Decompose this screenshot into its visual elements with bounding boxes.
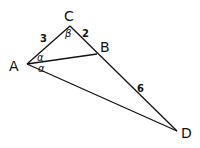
- side-label-bd: 6: [137, 83, 144, 94]
- point-label-c: C: [64, 8, 74, 24]
- angle-label-alpha-upper: α: [37, 52, 44, 63]
- triangle-diagram: C B A D 3 2 6 β α α: [0, 0, 200, 148]
- point-label-d: D: [181, 125, 192, 141]
- point-label-a: A: [9, 58, 19, 74]
- side-label-cb: 2: [82, 28, 89, 39]
- angle-label-alpha-lower: α: [38, 63, 45, 74]
- angle-label-beta: β: [64, 28, 72, 39]
- segment-ad: [27, 64, 177, 131]
- segment-cd: [70, 26, 177, 131]
- side-label-ac: 3: [40, 33, 47, 44]
- point-label-b: B: [100, 39, 110, 55]
